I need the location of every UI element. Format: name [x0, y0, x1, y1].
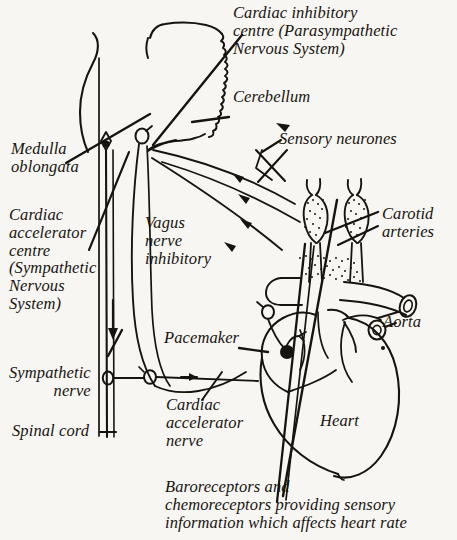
label-sensory-neurones: Sensory neurones	[279, 130, 397, 148]
label-cerebellum: Cerebellum	[233, 88, 310, 106]
label-spinal-cord: Spinal cord	[12, 422, 89, 440]
label-cardiac-accelerator-centre: Cardiac accelerator centre (Sympathetic …	[9, 206, 96, 313]
diagram-page: Cardiac inhibitory centre (Parasympathet…	[0, 0, 457, 540]
brain-outline	[80, 23, 228, 152]
label-pacemaker: Pacemaker	[164, 329, 239, 347]
carotid-artery-right	[345, 179, 369, 282]
label-aorta: Aorta	[383, 313, 421, 331]
label-carotid-arteries: Carotid arteries	[382, 205, 434, 241]
label-medulla-oblongata: Medulla oblongata	[11, 140, 79, 176]
label-heart: Heart	[320, 412, 359, 430]
label-vagus-nerve-inhibitory: Vagus nerve inhibitory	[145, 214, 211, 267]
label-sympathetic-nerve: Sympathetic nerve	[9, 364, 91, 400]
label-cardiac-inhibitory-centre: Cardiac inhibitory centre (Parasympathet…	[233, 4, 397, 57]
label-cardiac-accelerator-nerve: Cardiac accelerator nerve	[166, 396, 243, 449]
caption-baroreceptors-chemoreceptors: Baroreceptors and chemoreceptors providi…	[165, 478, 407, 531]
